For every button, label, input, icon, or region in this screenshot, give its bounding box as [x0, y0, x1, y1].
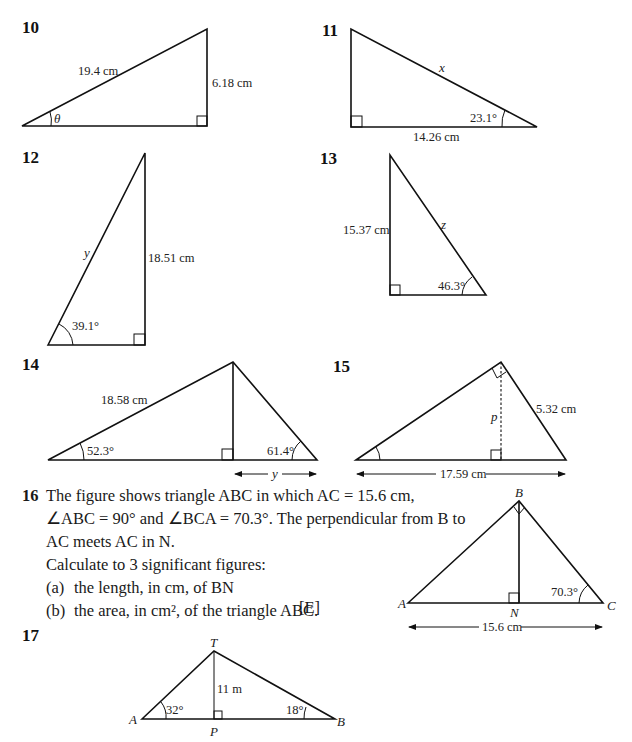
- right-angle-marker-top: [492, 368, 506, 378]
- question-12-figure: 12 39.1° y 18.51 cm: [22, 148, 195, 345]
- part-text: the area, in cm², of the triangle ABC.: [74, 601, 318, 620]
- right-triangle: [351, 29, 537, 127]
- question-text-line: ∠ABC = 90° and ∠BCA = 70.3°. The perpend…: [46, 507, 382, 530]
- vertex-t-label: T: [210, 635, 218, 650]
- base-label: 17.59 cm: [440, 467, 487, 481]
- hypotenuse-label: x: [438, 60, 445, 75]
- height-label: 11 m: [217, 682, 242, 696]
- side-label: 18.58 cm: [101, 393, 148, 407]
- vertex-b-label: B: [515, 485, 523, 500]
- side-label: 18.51 cm: [148, 251, 195, 265]
- side-label: 15.37 cm: [343, 223, 390, 237]
- angle-arc: [502, 110, 505, 127]
- angle-a-label: 32°: [166, 703, 184, 717]
- question-14-figure: 14 18.58 cm 52.3° 61.4° y: [22, 355, 317, 481]
- angle-label-left: 52.3°: [87, 444, 114, 458]
- question-13-figure: 13 z 15.37 cm 46.3°: [320, 149, 486, 295]
- angle-label: 70.3°: [551, 585, 578, 599]
- angle-label: 46.3°: [438, 279, 465, 293]
- question-number: 13: [320, 149, 337, 168]
- question-number: 17: [22, 626, 40, 645]
- triangle: [356, 362, 566, 460]
- question-number: 15: [333, 357, 350, 376]
- question-16-figure: B A C N 70.3° 15.6 cm: [397, 485, 616, 634]
- right-triangle: [390, 155, 486, 295]
- point-p-label: P: [209, 724, 218, 739]
- part-label: (b): [46, 599, 74, 622]
- part-text: the length, in cm, of BN: [74, 578, 234, 597]
- side-label: 6.18 cm: [212, 76, 253, 90]
- right-angle-marker: [509, 593, 519, 603]
- hypotenuse-label: y: [82, 245, 90, 260]
- question-number: 16: [22, 484, 39, 507]
- right-angle-marker: [197, 116, 207, 126]
- side-label: 5.32 cm: [536, 402, 577, 416]
- question-16-text: 16 The figure shows triangle ABC in whic…: [22, 484, 382, 622]
- angle-label: 39.1°: [72, 319, 99, 333]
- question-number: 14: [22, 355, 40, 374]
- angle-arc: [59, 324, 73, 345]
- vertex-b-label: B: [337, 714, 345, 729]
- vertex-c-label: C: [607, 598, 616, 613]
- angle-arc: [579, 585, 588, 603]
- base-label: 15.6 cm: [482, 620, 523, 634]
- question-10-figure: 10 θ 19.4 cm 6.18 cm: [22, 18, 253, 126]
- height-label: p: [490, 409, 498, 424]
- question-17-figure: 17 T A B P 11 m 32° 18°: [22, 626, 345, 739]
- point-n-label: N: [509, 605, 520, 620]
- vertex-a-label: A: [397, 596, 406, 611]
- hypotenuse-label: 19.4 cm: [78, 64, 119, 78]
- question-15-figure: 15 p 5.32 cm 17.59 cm: [333, 357, 577, 481]
- question-11-figure: 11 x 23.1° 14.26 cm: [322, 21, 537, 144]
- right-angle-marker: [351, 116, 362, 127]
- question-part-a: (a)the length, in cm, of BN: [46, 576, 382, 599]
- angle-b-label: 18°: [286, 703, 304, 717]
- angle-arc-left: [80, 443, 84, 460]
- question-number: 11: [322, 21, 338, 40]
- angle-arc: [376, 447, 380, 460]
- angle-arc: [50, 112, 51, 126]
- question-number: 12: [22, 148, 39, 167]
- hypotenuse-label: z: [440, 217, 446, 232]
- angle-label: 23.1°: [470, 111, 497, 125]
- question-text-line: Calculate to 3 significant figures:: [46, 553, 382, 576]
- unknown-label: y: [270, 466, 278, 481]
- right-angle-marker: [390, 285, 400, 295]
- question-text-line: AC meets AC in N.: [46, 530, 382, 553]
- angle-label: θ: [54, 111, 61, 126]
- angle-arc-b: [304, 707, 306, 719]
- right-angle-marker: [214, 711, 222, 719]
- vertex-a-label: A: [128, 712, 137, 727]
- right-angle-marker: [491, 450, 501, 460]
- angle-label-right: 61.4°: [267, 444, 294, 458]
- source-tag: [E]: [299, 598, 320, 618]
- right-angle-marker: [134, 334, 145, 345]
- question-text-line: The figure shows triangle ABC in which A…: [46, 484, 382, 507]
- question-part-b: (b)the area, in cm², of the triangle ABC…: [46, 599, 382, 622]
- base-label: 14.26 cm: [413, 130, 460, 144]
- right-triangle: [48, 153, 145, 345]
- right-angle-marker: [222, 449, 233, 460]
- part-label: (a): [46, 576, 74, 599]
- question-number: 10: [22, 18, 39, 37]
